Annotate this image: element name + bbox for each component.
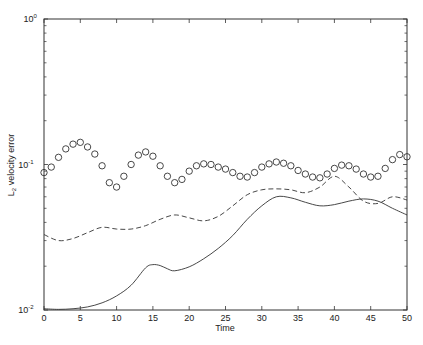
chart-canvas: 05101520253035404550 10-210-1100 Time L2…	[0, 0, 423, 345]
y-axis-label-rest: velocity error	[6, 134, 16, 188]
x-tick-label: 20	[184, 313, 194, 323]
y-axis-label: L2 velocity error	[6, 134, 17, 196]
x-tick-label: 25	[220, 313, 230, 323]
x-tick-label: 30	[257, 313, 267, 323]
x-tick-label: 35	[293, 313, 303, 323]
chart-background	[0, 0, 423, 345]
x-axis-label: Time	[215, 323, 235, 333]
x-tick-label: 0	[41, 313, 46, 323]
x-tick-label: 10	[112, 313, 122, 323]
x-tick-label: 40	[329, 313, 339, 323]
x-tick-label: 15	[148, 313, 158, 323]
x-tick-label: 5	[78, 313, 83, 323]
x-tick-label: 50	[402, 313, 412, 323]
x-tick-label: 45	[366, 313, 376, 323]
